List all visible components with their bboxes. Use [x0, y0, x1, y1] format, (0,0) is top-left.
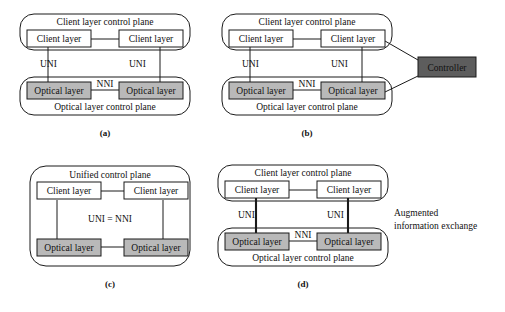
panel-d-client-left-label: Client layer: [235, 185, 280, 195]
panel-b-uni-left-label: UNI: [242, 59, 259, 69]
panel-b-client-left-label: Client layer: [239, 34, 284, 44]
panel-b-optical-plane-label: Optical layer control plane: [256, 102, 358, 112]
panel-c-client-right-label: Client layer: [134, 186, 179, 196]
panel-a-uni-right-label: UNI: [129, 59, 146, 69]
panel-a-uni-left-label: UNI: [40, 59, 57, 69]
panel-c-caption: (c): [105, 279, 115, 289]
panel-c: Unified control plane Client layer Clien…: [30, 166, 190, 289]
panel-a-nni-label: NNI: [97, 79, 114, 89]
panel-d: Client layer control plane Optical layer…: [218, 165, 477, 289]
panel-d-caption: (d): [298, 279, 309, 289]
panel-d-uni-left-label: UNI: [238, 210, 255, 220]
panel-b-client-right-label: Client layer: [331, 34, 376, 44]
panel-b-optical-right-label: Optical layer: [328, 86, 378, 96]
panel-d-optical-right-label: Optical layer: [324, 237, 374, 247]
panel-d-nni-label: NNI: [295, 230, 312, 240]
panel-a-optical-plane-label: Optical layer control plane: [54, 102, 156, 112]
panel-c-uni-nni-label: UNI = NNI: [88, 214, 132, 224]
panel-a-client-left-label: Client layer: [37, 34, 82, 44]
panel-b-controller-label: Controller: [427, 63, 467, 73]
panel-d-note-line2: information exchange: [394, 221, 477, 231]
panel-d-client-plane-label: Client layer control plane: [255, 168, 352, 178]
panel-b-client-plane-label: Client layer control plane: [259, 17, 356, 27]
panel-a-optical-right-label: Optical layer: [126, 86, 176, 96]
panel-c-optical-left-label: Optical layer: [44, 243, 94, 253]
panel-a-client-right-label: Client layer: [129, 34, 174, 44]
panel-a-client-plane-label: Client layer control plane: [57, 17, 154, 27]
panel-c-client-left-label: Client layer: [47, 186, 92, 196]
figure-container: Client layer control plane Optical layer…: [0, 0, 505, 312]
panel-b: Client layer control plane Optical layer…: [222, 14, 476, 138]
panel-b-caption: (b): [302, 128, 313, 138]
panel-d-client-right-label: Client layer: [327, 185, 372, 195]
panel-a-optical-left-label: Optical layer: [34, 86, 84, 96]
panel-b-nni-label: NNI: [299, 79, 316, 89]
control-plane-architectures-diagram: Client layer control plane Optical layer…: [0, 0, 505, 312]
panel-d-uni-right-label: UNI: [327, 210, 344, 220]
panel-b-uni-right-label: UNI: [331, 59, 348, 69]
panel-b-optical-left-label: Optical layer: [236, 86, 286, 96]
panel-d-note-line1: Augmented: [394, 208, 439, 218]
panel-c-optical-right-label: Optical layer: [131, 243, 181, 253]
panel-d-optical-plane-label: Optical layer control plane: [252, 253, 354, 263]
panel-a-caption: (a): [100, 128, 111, 138]
panel-c-unified-plane-label: Unified control plane: [69, 170, 150, 180]
panel-b-controller-link-client: [385, 41, 418, 60]
panel-a: Client layer control plane Optical layer…: [20, 14, 190, 138]
panel-d-optical-left-label: Optical layer: [232, 237, 282, 247]
